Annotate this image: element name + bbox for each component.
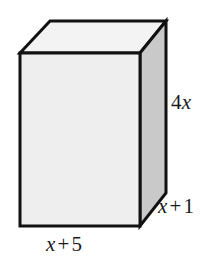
depth-variable: x [158, 194, 168, 218]
height-coefficient: 4 [171, 90, 182, 114]
depth-operator: + [168, 194, 184, 218]
depth-constant: 1 [184, 194, 195, 218]
front-face [20, 53, 140, 226]
height-variable: x [182, 90, 192, 114]
height-dimension-label: 4x [171, 92, 191, 113]
figure-container: 4x x+1 x+5 [0, 0, 221, 264]
width-operator: + [56, 232, 72, 256]
width-variable: x [46, 232, 56, 256]
depth-dimension-label: x+1 [158, 196, 194, 217]
width-dimension-label: x+5 [46, 234, 82, 255]
rectangular-prism-drawing [0, 0, 221, 264]
width-constant: 5 [72, 232, 83, 256]
